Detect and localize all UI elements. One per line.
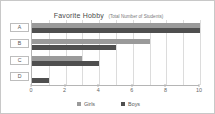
y-category-d: D (10, 72, 29, 81)
y-category-a: A (10, 23, 29, 32)
bar-group (32, 53, 199, 70)
y-category-b: B (10, 39, 29, 48)
bar-d-boys (32, 78, 49, 83)
chart-legend: GirlsBoys (1, 101, 215, 107)
x-tick-label: 10 (196, 87, 202, 93)
bar-group (32, 20, 199, 37)
bar-a-girls (32, 23, 200, 28)
chart-title-main: Favorite Hobby (54, 12, 104, 19)
legend-item-girls[interactable]: Girls (77, 101, 95, 107)
girls-swatch (77, 102, 81, 106)
y-category-c: C (10, 56, 29, 65)
legend-label: Girls (84, 101, 95, 107)
plot-area (31, 20, 199, 86)
legend-item-boys[interactable]: Boys (121, 101, 140, 107)
bar-b-boys (32, 45, 116, 50)
y-axis-categories: ABCD (10, 20, 31, 86)
boys-swatch (121, 102, 125, 106)
x-tick-label: 2 (63, 87, 66, 93)
bar-groups (32, 20, 199, 85)
chart-subtitle: (Total Number of Students) (108, 14, 163, 19)
bar-b-girls (32, 39, 150, 44)
chart-card: Favorite Hobby (Total Number of Students… (0, 0, 215, 114)
bar-group (32, 70, 199, 87)
x-tick-label: 0 (30, 87, 33, 93)
x-tick-label: 6 (130, 87, 133, 93)
legend-label: Boys (128, 101, 140, 107)
x-tick-label: 8 (164, 87, 167, 93)
bar-a-boys (32, 28, 200, 33)
x-tick-label: 4 (97, 87, 100, 93)
bar-c-girls (32, 56, 82, 61)
bar-group (32, 37, 199, 54)
x-axis-ticks: 0246810 (31, 87, 199, 96)
gridline (200, 20, 201, 85)
bar-c-boys (32, 61, 99, 66)
